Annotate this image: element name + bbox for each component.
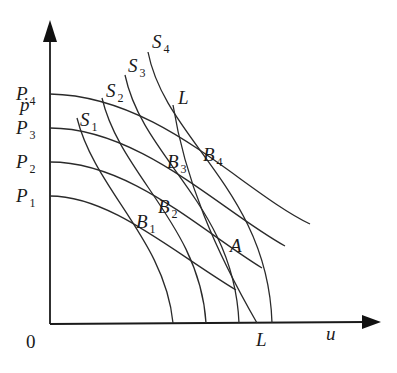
label-l-top: L xyxy=(178,88,189,107)
point-a: A xyxy=(230,236,242,255)
tick-label-p2: P2 xyxy=(16,152,36,175)
label-s3: S3 xyxy=(128,56,146,79)
tick-label-p1: P1 xyxy=(16,186,36,209)
label-s1: S1 xyxy=(80,110,98,133)
phillips-curve-diagram: ṗ u 0 P4 P3 P2 P1 S1 S2 S3 S4 L L B1 B2 … xyxy=(0,0,397,373)
tick-label-p4: P4 xyxy=(16,84,36,107)
curve-s1 xyxy=(77,118,173,323)
curve-s3 xyxy=(125,75,239,323)
x-axis xyxy=(50,322,366,324)
x-axis-label: u xyxy=(326,324,336,343)
label-s2: S2 xyxy=(106,81,124,104)
diagram-canvas xyxy=(0,0,397,373)
y-axis-arrow-icon xyxy=(43,20,57,42)
point-b4: B4 xyxy=(203,145,223,168)
point-b3: B3 xyxy=(167,152,187,175)
point-b1: B1 xyxy=(136,212,156,235)
x-axis-arrow-icon xyxy=(362,315,381,329)
point-b2: B2 xyxy=(158,197,178,220)
curve-s2 xyxy=(102,98,206,323)
tick-label-p3: P3 xyxy=(16,118,36,141)
origin-label: 0 xyxy=(26,332,36,351)
line-l xyxy=(173,105,257,323)
label-l-bottom: L xyxy=(256,330,267,349)
label-s4: S4 xyxy=(152,32,170,55)
